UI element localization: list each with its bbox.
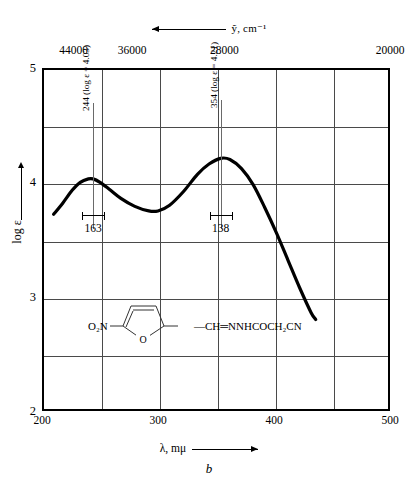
y-tick-label: 2 xyxy=(2,404,36,419)
x-tick-label: 500 xyxy=(381,414,398,426)
absorption-spectrum-figure: ỹ, cm⁻¹ 44000360002800020000 244 (log ε … xyxy=(0,0,418,485)
figure-label: b xyxy=(0,461,418,477)
bandwidth-cap xyxy=(210,212,211,220)
bandwidth-value: 138 xyxy=(212,222,229,234)
y-tick-label: 3 xyxy=(2,289,36,304)
y-tick-label: 5 xyxy=(2,61,36,76)
bottom-axis-title: λ, mμ xyxy=(0,442,418,454)
top-tick-label: 20000 xyxy=(376,44,405,56)
top-axis-title-text: ỹ, cm⁻¹ xyxy=(232,22,267,34)
structure-right-text: —CH═NNHCOCH₂CN xyxy=(194,320,302,332)
bandwidth-bar-right xyxy=(221,215,232,216)
peak-marker-line xyxy=(221,100,222,229)
top-tick-label: 36000 xyxy=(118,44,147,56)
svg-text:O: O xyxy=(139,334,146,345)
y-axis-title: log ε xyxy=(10,220,25,243)
peak-label: 244 (log ε = 4.03) xyxy=(81,45,91,111)
y-tick-label: 4 xyxy=(2,175,36,190)
bottom-axis-title-text: λ, mμ xyxy=(160,442,186,454)
structure-right-formula: —CH═NNHCOCH₂CN xyxy=(194,320,302,332)
x-tick-label: 400 xyxy=(265,414,282,426)
bandwidth-bar-left xyxy=(210,215,221,216)
right-arrow-icon xyxy=(192,446,258,453)
bandwidth-cap xyxy=(232,212,233,220)
top-axis-title: ỹ, cm⁻¹ xyxy=(0,22,418,35)
spectrum-curve xyxy=(42,68,390,411)
chemical-structure: O₂N O —CH═NNHCOCH₂CN xyxy=(88,300,288,358)
peak-label: 354 (log ε = 4.21) xyxy=(209,42,219,108)
bandwidth-cap xyxy=(104,212,105,220)
x-tick-label: 300 xyxy=(149,414,166,426)
y-axis-arrow-icon xyxy=(21,168,22,220)
left-arrow-icon xyxy=(152,26,226,33)
bandwidth-bar-right xyxy=(93,215,104,216)
bandwidth-cap xyxy=(82,212,83,220)
bandwidth-bar-left xyxy=(82,215,93,216)
peak-marker-line xyxy=(93,103,94,229)
bandwidth-value: 163 xyxy=(84,222,101,234)
